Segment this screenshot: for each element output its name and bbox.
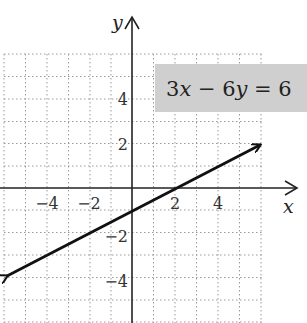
svg-text:4: 4 <box>213 194 223 213</box>
svg-text:−2: −2 <box>77 194 101 213</box>
svg-text:2: 2 <box>170 194 180 213</box>
equation-label: 3x − 6y = 6 <box>166 77 292 101</box>
svg-text:−4: −4 <box>35 194 59 213</box>
svg-text:4: 4 <box>118 90 128 109</box>
graph: 3x − 6y = 6 x y −4 −2 2 4 4 2 −2 −4 <box>0 0 307 323</box>
svg-text:−2: −2 <box>104 227 128 246</box>
y-tick-labels: 4 2 −2 −4 <box>104 90 128 291</box>
y-axis-label: y <box>111 11 123 33</box>
svg-text:−4: −4 <box>104 272 128 291</box>
x-axis-label: x <box>283 195 294 217</box>
svg-text:2: 2 <box>118 135 128 154</box>
equation-box: 3x − 6y = 6 <box>155 64 307 112</box>
